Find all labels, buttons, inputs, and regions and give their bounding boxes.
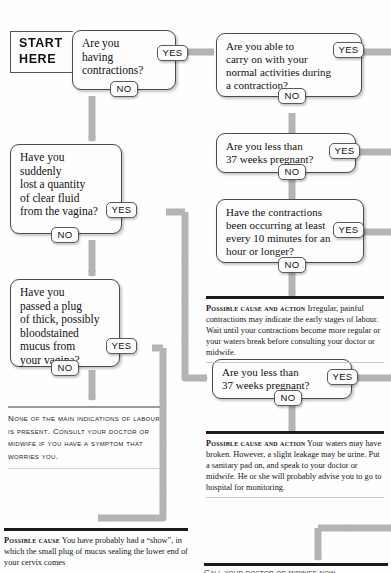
- outcome-no-indications: None of the main indications of labour i…: [8, 406, 160, 469]
- edge-q5-yes-b: [185, 212, 207, 378]
- rule-bottom: [206, 497, 384, 498]
- no-tag-q7[interactable]: NO: [51, 360, 79, 376]
- outcome-show: Possible cause You have probably had a “…: [4, 528, 188, 568]
- outcome-lead: Possible cause: [4, 536, 60, 545]
- no-tag-q5[interactable]: NO: [51, 227, 79, 243]
- question-text: Have you suddenly lost a quantity of cle…: [20, 151, 113, 219]
- no-tag-q4[interactable]: NO: [278, 257, 306, 273]
- no-tag-q3[interactable]: NO: [278, 164, 306, 180]
- outcome-lead: Possible cause and action: [206, 439, 305, 448]
- flowchart-page: START HERE Are you having contractions? …: [0, 0, 391, 573]
- no-tag-q1[interactable]: NO: [110, 81, 138, 97]
- question-text: Are you having contractions?: [82, 37, 167, 78]
- question-box-clear-fluid[interactable]: Have you suddenly lost a quantity of cle…: [10, 144, 122, 234]
- no-tag-q6[interactable]: NO: [274, 390, 302, 406]
- yes-tag-q4[interactable]: YES: [333, 222, 364, 238]
- yes-tag-q2[interactable]: YES: [333, 42, 364, 58]
- yes-tag-q6[interactable]: YES: [327, 369, 358, 385]
- yes-tag-q1[interactable]: YES: [157, 45, 188, 61]
- rule-top: [206, 431, 384, 434]
- outcome-irregular-contractions: Possible cause and action Irregular, pai…: [206, 296, 384, 363]
- question-text: Have you passed a plug of thick, possibl…: [20, 286, 111, 367]
- question-box-mucus-plug[interactable]: Have you passed a plug of thick, possibl…: [10, 279, 120, 367]
- rule-top: [4, 528, 188, 531]
- outcome-lead: Possible cause and action: [206, 304, 305, 313]
- outcome-text: Call your doctor or midwife now: [204, 568, 388, 573]
- outcome-call-doctor-clipped: Call your doctor or midwife now: [204, 563, 388, 573]
- rule-bottom: [8, 468, 160, 469]
- yes-tag-q5[interactable]: YES: [106, 202, 137, 218]
- rule-top: [204, 563, 388, 566]
- rule-top: [8, 406, 160, 408]
- no-tag-q2[interactable]: NO: [278, 88, 306, 104]
- yes-tag-q3[interactable]: YES: [329, 143, 360, 159]
- question-text: Are you less than 37 weeks pregnant?: [222, 366, 343, 392]
- outcome-text: None of the main indications of labour i…: [8, 414, 160, 460]
- rule-bottom: [206, 362, 384, 363]
- rule-top: [206, 296, 384, 299]
- yes-tag-q7[interactable]: YES: [106, 338, 137, 354]
- outcome-waters-broken: Possible cause and action Your waters ma…: [206, 431, 384, 498]
